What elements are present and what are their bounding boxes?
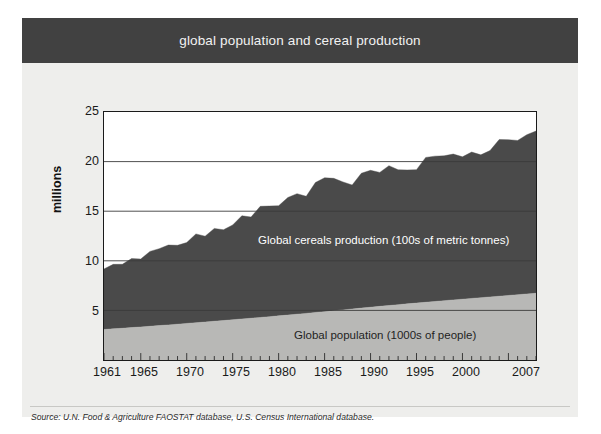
source-note: Source: U.N. Food & Agriculture FAOSTAT …	[31, 412, 374, 422]
chart-body: millions 25 20 15 10 5 1961 1965 1970 19…	[22, 63, 578, 417]
footer-divider	[30, 406, 570, 407]
series-label-cereals: Global cereals production (100s of metri…	[258, 234, 509, 246]
x-tick-1985: 1985	[308, 365, 348, 379]
y-axis-ticks: 25 20 15 10 5	[67, 63, 99, 417]
x-tick-1980: 1980	[262, 365, 302, 379]
y-tick-10: 10	[73, 254, 99, 268]
x-tick-1965: 1965	[124, 365, 164, 379]
figure-panel: global population and cereal production …	[22, 18, 578, 417]
x-tick-1970: 1970	[170, 365, 210, 379]
series-label-population: Global population (1000s of people)	[294, 329, 476, 341]
x-tick-2000: 2000	[446, 365, 486, 379]
y-tick-20: 20	[73, 154, 99, 168]
x-tick-1975: 1975	[216, 365, 256, 379]
title-band: global population and cereal production	[22, 18, 578, 63]
y-tick-5: 5	[73, 304, 99, 318]
x-tick-1990: 1990	[354, 365, 394, 379]
y-tick-15: 15	[73, 204, 99, 218]
x-tick-2007: 2007	[506, 365, 546, 379]
y-axis-label: millions	[50, 166, 64, 213]
x-tick-1995: 1995	[400, 365, 440, 379]
y-tick-25: 25	[73, 104, 99, 118]
chart-title: global population and cereal production	[22, 18, 578, 63]
x-tick-1961: 1961	[87, 365, 127, 379]
